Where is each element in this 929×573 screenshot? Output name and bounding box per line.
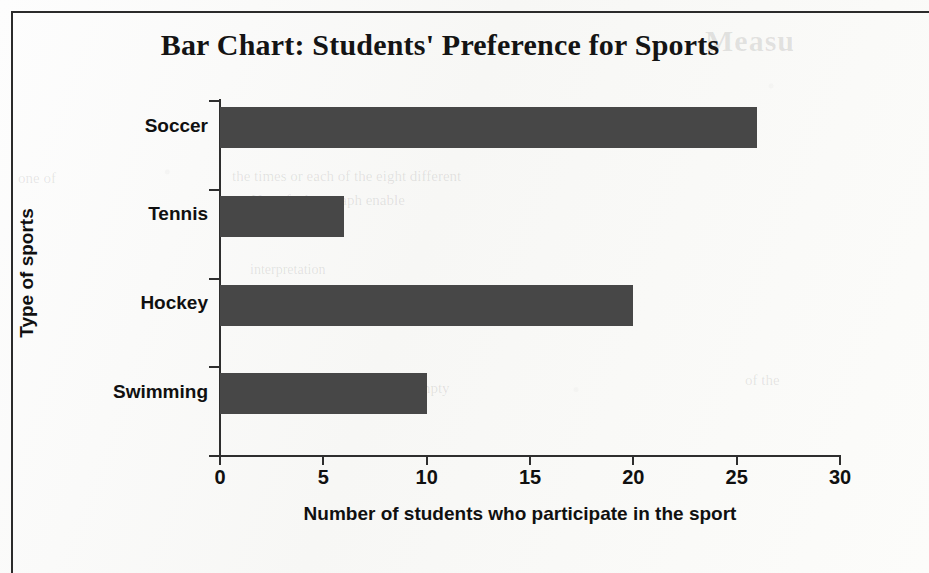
chart-title: Bar Chart: Students' Preference for Spor…	[0, 28, 880, 62]
x-axis-label-15: 15	[500, 466, 560, 489]
chart-screenshot: Measu one of the times or each of the ei…	[0, 0, 929, 573]
y-axis-label-hockey: Hockey	[40, 292, 208, 314]
plot-area	[220, 100, 840, 455]
y-axis-title: Type of sports	[16, 183, 38, 363]
bar-hockey	[220, 285, 633, 326]
y-axis-label-swimming: Swimming	[40, 381, 208, 403]
y-axis-tick	[209, 366, 220, 368]
x-axis-tick	[426, 456, 428, 465]
x-axis-label-10: 10	[397, 466, 457, 489]
x-axis-title: Number of students who participate in th…	[180, 503, 860, 525]
page-border-left	[11, 11, 13, 573]
x-axis-label-25: 25	[707, 466, 767, 489]
bar-soccer	[220, 107, 757, 148]
bar-swimming	[220, 373, 427, 414]
x-axis-tick	[219, 456, 221, 465]
x-axis-tick	[839, 456, 841, 465]
x-axis-tick	[529, 456, 531, 465]
y-axis-tick	[209, 100, 220, 102]
y-axis-tick	[209, 189, 220, 191]
x-axis-label-20: 20	[603, 466, 663, 489]
x-axis-tick	[632, 456, 634, 465]
bar-tennis	[220, 196, 344, 237]
x-axis-label-30: 30	[810, 466, 870, 489]
x-axis-label-0: 0	[190, 466, 250, 489]
x-axis-tick	[322, 456, 324, 465]
page-border-top	[11, 11, 929, 13]
x-axis-tick	[736, 456, 738, 465]
x-axis-label-5: 5	[293, 466, 353, 489]
y-axis-tick	[209, 278, 220, 280]
y-axis-label-soccer: Soccer	[40, 115, 208, 137]
y-axis-label-tennis: Tennis	[40, 203, 208, 225]
